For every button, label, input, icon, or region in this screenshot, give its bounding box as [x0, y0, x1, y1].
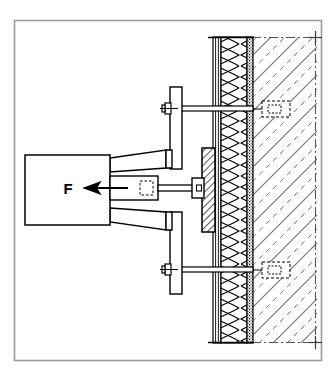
pull-off-test-diagram: F: [0, 0, 336, 384]
insulation-layer: [221, 37, 247, 343]
force-label: F: [63, 180, 72, 197]
figure-root: F: [0, 0, 336, 384]
substrate-structure: [252, 37, 317, 343]
adhesive-layer: [247, 37, 253, 343]
